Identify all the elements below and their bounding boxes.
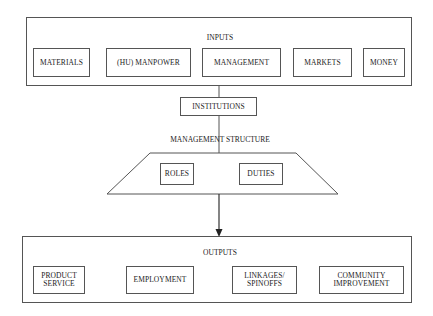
institutions-box: INSTITUTIONS [180, 97, 257, 116]
structure-roles: ROLES [160, 163, 194, 185]
input-management: MANAGEMENT [202, 48, 281, 77]
outputs-title: OUTPUTS [195, 248, 245, 257]
input-markets: MARKETS [293, 48, 352, 77]
management-structure-title: MANAGEMENT STRUCTURE [150, 135, 290, 144]
input-manpower: (HU) MANPOWER [106, 48, 191, 77]
output-employment: EMPLOYMENT [126, 266, 194, 294]
input-materials: MATERIALS [33, 48, 90, 77]
structure-duties: DUTIES [239, 163, 283, 185]
inputs-title: INPUTS [195, 33, 245, 42]
output-community-improvement: COMMUNITY IMPROVEMENT [319, 266, 404, 294]
management-structure-trapezoid [107, 153, 338, 194]
input-money: MONEY [363, 48, 405, 77]
output-linkages-spinoffs: LINKAGES/ SPINOFFS [232, 266, 297, 294]
output-product-service: PRODUCT SERVICE [33, 266, 85, 294]
